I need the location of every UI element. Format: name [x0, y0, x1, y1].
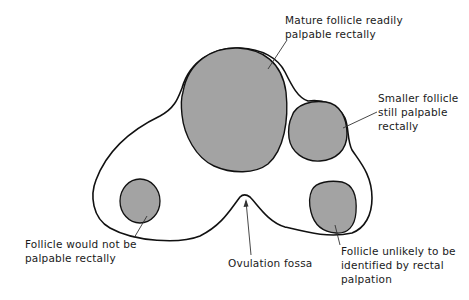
left-follicle	[120, 179, 160, 223]
label-mature-follicle-line1: Mature follicle readily	[285, 13, 403, 27]
mature-follicle	[181, 48, 286, 172]
label-ovulation-fossa: Ovulation fossa	[228, 256, 312, 270]
label-smaller-follicle-line1: Smaller follicle	[378, 91, 459, 105]
label-smaller-follicle-line2: still palpable	[378, 105, 459, 119]
label-left-follicle-line1: Follicle would not be	[25, 237, 137, 251]
label-left-follicle: Follicle would not be palpable rectally	[25, 237, 137, 265]
label-bottom-right-follicle-line1: Follicle unlikely to be	[341, 244, 456, 258]
label-bottom-right-follicle: Follicle unlikely to be identified by re…	[341, 244, 456, 286]
leader-ovulation-fossa	[246, 201, 251, 255]
label-mature-follicle-line2: palpable rectally	[285, 27, 403, 41]
label-smaller-follicle-line3: rectally	[378, 119, 459, 133]
label-ovulation-fossa-line1: Ovulation fossa	[228, 256, 312, 270]
label-mature-follicle: Mature follicle readily palpable rectall…	[285, 13, 403, 41]
label-bottom-right-follicle-line2: identified by rectal	[341, 258, 456, 272]
label-bottom-right-follicle-line3: palpation	[341, 272, 456, 286]
arrowhead-ovulation-fossa	[244, 199, 249, 207]
leader-smaller-follicle	[343, 112, 377, 128]
smaller-follicle	[289, 102, 347, 162]
label-smaller-follicle: Smaller follicle still palpable rectally	[378, 91, 459, 133]
label-left-follicle-line2: palpable rectally	[25, 251, 137, 265]
